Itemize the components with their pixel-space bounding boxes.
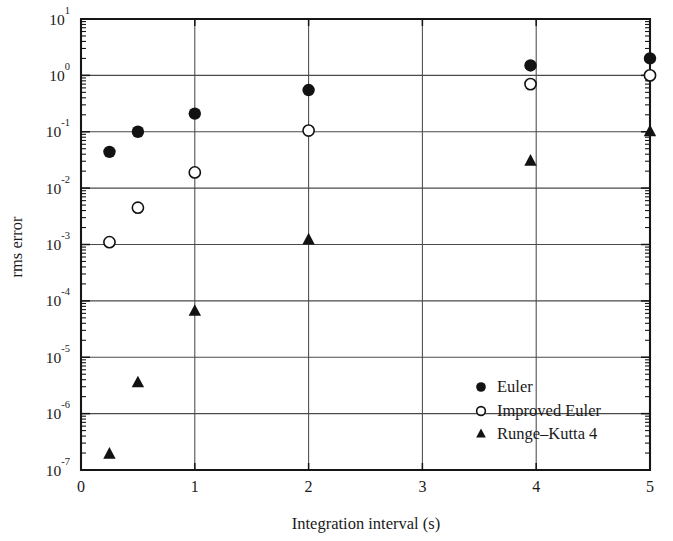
data-point-open-circle: [132, 202, 143, 213]
data-point-triangle: [132, 376, 144, 388]
data-point-open-circle: [189, 167, 200, 178]
data-point-open-circle: [104, 237, 115, 248]
x-axis-title: Integration interval (s): [292, 514, 440, 533]
y-tick-label: 100: [49, 60, 70, 84]
x-tick-label: 4: [532, 478, 540, 495]
legend-label-runge-kutta-4: Runge–Kutta 4: [497, 424, 597, 443]
data-point-triangle: [189, 304, 201, 316]
x-tick-label: 3: [418, 478, 426, 495]
y-tick-label: 10-7: [46, 455, 70, 479]
data-point-filled-circle: [524, 59, 536, 71]
y-tick-label: 101: [49, 4, 70, 28]
data-point-filled-circle: [132, 126, 144, 138]
legend-label-euler: Euler: [497, 377, 533, 396]
data-point-filled-circle: [644, 52, 656, 64]
y-axis-title: rms error: [7, 216, 26, 277]
rms-error-vs-integration-interval-chart: 10110010-110-210-310-410-510-610-7 01234…: [0, 0, 673, 541]
x-tick-label: 2: [305, 478, 313, 495]
data-point-triangle: [644, 125, 656, 137]
data-point-open-circle: [525, 79, 536, 90]
y-tick-label: 10-1: [46, 117, 70, 141]
y-tick-label: 10-6: [46, 399, 70, 423]
x-axis-tick-labels: 012345: [77, 478, 654, 495]
series-improved-euler-points: [104, 70, 656, 248]
x-tick-label: 1: [191, 478, 199, 495]
data-point-filled-circle: [189, 107, 201, 119]
series-euler-points: [103, 52, 656, 158]
data-point-filled-circle: [103, 146, 115, 158]
y-tick-label: 10-3: [46, 230, 70, 254]
figure-container: 10110010-110-210-310-410-510-610-7 01234…: [0, 0, 673, 541]
data-point-triangle: [476, 428, 486, 437]
y-axis-ticks-left: [81, 19, 90, 470]
horizontal-gridlines: [81, 75, 650, 413]
legend-label-improved-euler: Improved Euler: [497, 401, 602, 420]
y-tick-label: 10-2: [46, 173, 70, 197]
data-point-filled-circle: [476, 382, 486, 392]
data-point-triangle: [524, 154, 536, 166]
data-point-triangle: [302, 233, 314, 245]
y-axis-tick-labels: 10110010-110-210-310-410-510-610-7: [46, 4, 71, 479]
data-point-open-circle: [644, 70, 655, 81]
y-tick-label: 10-4: [46, 286, 71, 310]
legend: EulerImproved EulerRunge–Kutta 4: [476, 377, 601, 443]
x-tick-label: 5: [646, 478, 654, 495]
data-point-triangle: [103, 447, 115, 459]
data-point-open-circle: [303, 125, 314, 136]
x-tick-label: 0: [77, 478, 85, 495]
y-axis-ticks-right: [641, 19, 650, 470]
data-point-filled-circle: [302, 84, 314, 96]
y-tick-label: 10-5: [46, 342, 70, 366]
data-point-open-circle: [477, 407, 486, 416]
